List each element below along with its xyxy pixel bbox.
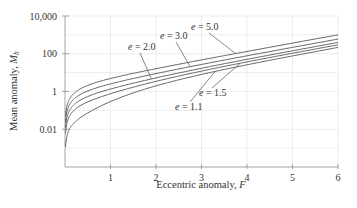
y-tick-label: 1: [52, 86, 57, 97]
y-tick-label: 100: [42, 48, 57, 59]
annotation-label-e-2-0: e = 2.0: [128, 41, 156, 52]
eccentricity-value: = 2.0: [132, 41, 155, 52]
annotation-label-e-3-0: e = 3.0: [160, 30, 188, 41]
eccentricity-value: = 1.5: [203, 87, 226, 98]
annotation-leader-line: [209, 33, 236, 54]
annotation-label-e-1-5: e = 1.5: [199, 87, 227, 98]
eccentricity-value: = 5.0: [195, 21, 218, 32]
annotation-leader-line: [212, 63, 240, 88]
x-tick-label: 6: [336, 172, 341, 183]
annotation-label-e-5-0: e = 5.0: [191, 21, 219, 32]
eccentricity-value: = 1.1: [179, 101, 202, 112]
eccentricity-value: = 3.0: [164, 30, 187, 41]
chart: 1234560.01110010,000 e = 1.1e = 1.5e = 2…: [0, 0, 357, 208]
y-tick-label: 0.01: [40, 124, 58, 135]
annotation-leader-line: [140, 53, 151, 79]
x-tick-label: 1: [108, 172, 113, 183]
y-tick-label: 10,000: [30, 11, 58, 22]
annotation-label-e-1-1: e = 1.1: [175, 101, 203, 112]
x-axis-title: Eccentric anomaly, F: [156, 179, 246, 190]
x-tick-label: 5: [290, 172, 295, 183]
y-axis-title: Mean anomaly, Mh: [8, 51, 21, 131]
